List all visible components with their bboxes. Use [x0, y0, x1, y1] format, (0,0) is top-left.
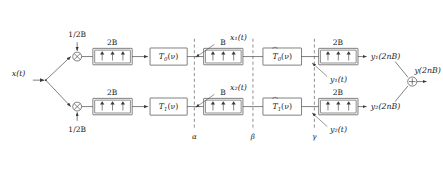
diagram-svg: x(t) 1/2B 1/2B 2B B 2B 2B B 2B T: [0, 0, 443, 171]
sampler-bottom-mid[interactable]: [204, 98, 243, 114]
sampler-top-output[interactable]: [319, 48, 358, 64]
label-filter-analysis-top: T0(ν): [159, 52, 179, 62]
label-output-y2: y₂(2nB): [370, 102, 401, 111]
label-rate-bottom-input: 2B: [107, 88, 118, 97]
sampler-top-input[interactable]: [93, 48, 132, 64]
label-filter-analysis-bottom: T1(ν): [159, 102, 179, 112]
label-signal-y1t: y₁(t): [329, 75, 347, 84]
label-rate-bottom-output: 2B: [333, 88, 344, 97]
label-filter-synthesis-top: T0(ν): [272, 52, 292, 62]
label-output-total: y(2nB): [413, 66, 440, 75]
sampler-bottom-input[interactable]: [93, 98, 132, 114]
sampler-bottom-output[interactable]: [319, 98, 358, 114]
branch-bottom: [73, 98, 367, 121]
label-carrier-top: 1/2B: [68, 30, 86, 39]
label-rate-top-mid: B: [220, 38, 226, 47]
label-section-gamma: γ: [312, 132, 317, 141]
label-signal-y2t: y₂(t): [329, 125, 347, 134]
input-wire: [33, 57, 71, 107]
label-signal-x2: x₂(t): [230, 83, 247, 92]
label-filter-synthesis-bottom: T1(ν): [272, 102, 292, 112]
label-signal-x1: x₁(t): [230, 33, 247, 42]
sampler-top-mid[interactable]: [204, 48, 243, 64]
label-section-alpha: α: [192, 132, 197, 141]
label-section-beta: β: [250, 132, 255, 141]
label-rate-top-output: 2B: [333, 38, 344, 47]
label-rate-bottom-mid: B: [220, 88, 226, 97]
block-diagram-canvas: x(t) 1/2B 1/2B 2B B 2B 2B B 2B T: [0, 0, 443, 171]
label-rate-top-input: 2B: [107, 38, 118, 47]
label-output-y1: y₁(2nB): [370, 52, 401, 61]
label-carrier-bottom: 1/2B: [68, 125, 86, 134]
label-input: x(t): [12, 69, 26, 78]
